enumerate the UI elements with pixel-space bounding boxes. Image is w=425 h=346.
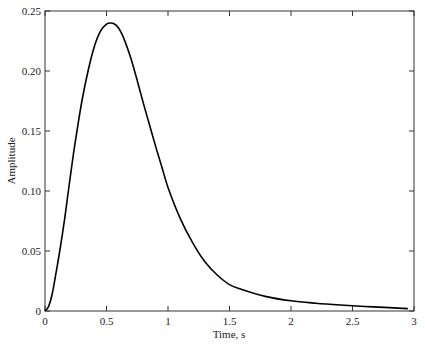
y-axis-label: Amplitude (5, 137, 17, 184)
x-axis-label: Time, s (213, 328, 246, 340)
x-tick-label: 2 (288, 315, 294, 327)
amplitude-time-chart: 00.511.522.53 00.050.100.150.200.25 Time… (0, 0, 425, 346)
y-tick-label: 0.25 (22, 5, 42, 17)
y-tick-label: 0.05 (22, 245, 42, 257)
y-tick-label: 0.10 (22, 185, 42, 197)
y-tick-label: 0.15 (22, 125, 42, 137)
x-tick-label: 2.5 (346, 315, 360, 327)
x-tick-label: 1 (165, 315, 171, 327)
x-tick-label: 0.5 (100, 315, 114, 327)
x-tick-label: 3 (411, 315, 417, 327)
y-tick-label: 0 (36, 305, 42, 317)
plot-frame (45, 11, 414, 311)
x-axis-ticks: 00.511.522.53 (42, 11, 417, 327)
y-axis-ticks: 00.050.100.150.200.25 (22, 5, 414, 317)
x-tick-label: 1.5 (223, 315, 237, 327)
response-curve (45, 23, 408, 311)
x-tick-label: 0 (42, 315, 48, 327)
y-tick-label: 0.20 (22, 65, 42, 77)
